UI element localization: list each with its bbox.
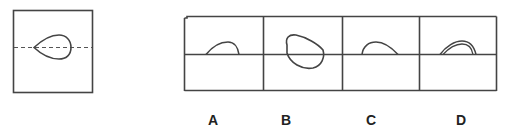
- option-c-shape[interactable]: [362, 42, 398, 55]
- reference-figure: [14, 11, 93, 93]
- options-grid: [185, 17, 497, 92]
- grid-top-border: [185, 17, 497, 19]
- option-b-label[interactable]: B: [276, 112, 296, 128]
- option-d-shape[interactable]: [440, 41, 476, 55]
- reference-square: [14, 11, 93, 93]
- option-a-shape[interactable]: [206, 42, 239, 55]
- option-d-inner-arc: [443, 44, 473, 55]
- option-c-label[interactable]: C: [361, 112, 381, 128]
- figure-canvas: [0, 0, 512, 134]
- option-d-label[interactable]: D: [451, 112, 471, 128]
- option-b-shape[interactable]: [286, 35, 323, 68]
- option-a-label[interactable]: A: [203, 112, 223, 128]
